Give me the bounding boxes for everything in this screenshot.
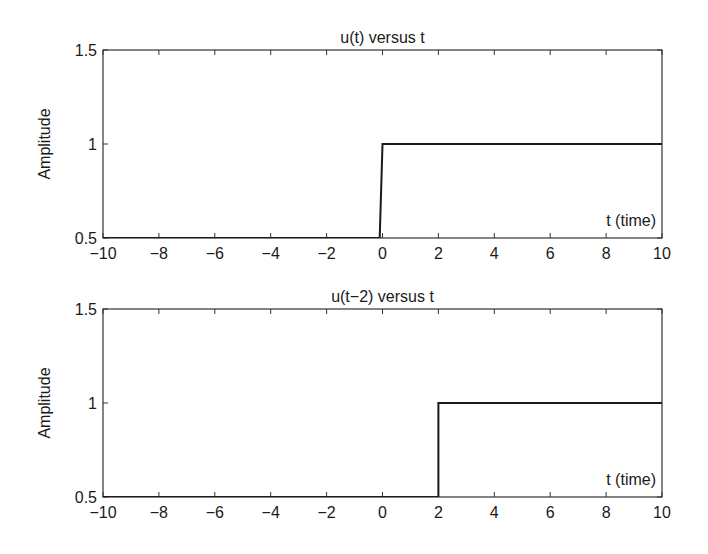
x-tick-label: 8	[602, 504, 611, 521]
x-tick-label: 0	[378, 245, 387, 262]
y-tick-label: 1.5	[75, 42, 97, 59]
x-tick-label: −6	[206, 504, 224, 521]
y-axis-label: Amplitude	[36, 108, 53, 179]
x-tick-label: −8	[150, 245, 168, 262]
x-tick-label: −8	[150, 504, 168, 521]
plot-u-t: u(t) versus t−10−8−6−4−202468100.511.5Am…	[36, 29, 671, 262]
y-tick-label: 1.5	[75, 301, 97, 318]
x-tick-label: 4	[490, 245, 499, 262]
y-tick-label: 0.5	[75, 230, 97, 247]
x-tick-label: −2	[317, 245, 335, 262]
x-tick-label: 6	[546, 245, 555, 262]
figure: u(t) versus t−10−8−6−4−202468100.511.5Am…	[0, 0, 708, 554]
x-tick-label: 2	[434, 504, 443, 521]
x-tick-label: 8	[602, 245, 611, 262]
x-tick-label: −2	[317, 504, 335, 521]
series-line	[103, 403, 662, 497]
chart-title: u(t−2) versus t	[331, 288, 434, 305]
plot-u-t-minus-2: u(t−2) versus t−10−8−6−4−202468100.511.5…	[36, 288, 671, 521]
y-axis-label: Amplitude	[36, 367, 53, 438]
x-tick-label: 4	[490, 504, 499, 521]
series-line	[103, 144, 662, 238]
chart-title: u(t) versus t	[340, 29, 425, 46]
x-tick-label: −10	[89, 245, 116, 262]
time-annotation: t (time)	[606, 471, 656, 488]
x-tick-label: 2	[434, 245, 443, 262]
y-tick-label: 1	[88, 395, 97, 412]
time-annotation: t (time)	[606, 212, 656, 229]
x-tick-label: −4	[262, 504, 280, 521]
x-tick-label: 0	[378, 504, 387, 521]
y-tick-label: 1	[88, 136, 97, 153]
x-tick-label: −6	[206, 245, 224, 262]
x-tick-label: −4	[262, 245, 280, 262]
y-tick-label: 0.5	[75, 489, 97, 506]
x-tick-label: 10	[653, 504, 671, 521]
x-tick-label: −10	[89, 504, 116, 521]
x-tick-label: 10	[653, 245, 671, 262]
x-tick-label: 6	[546, 504, 555, 521]
